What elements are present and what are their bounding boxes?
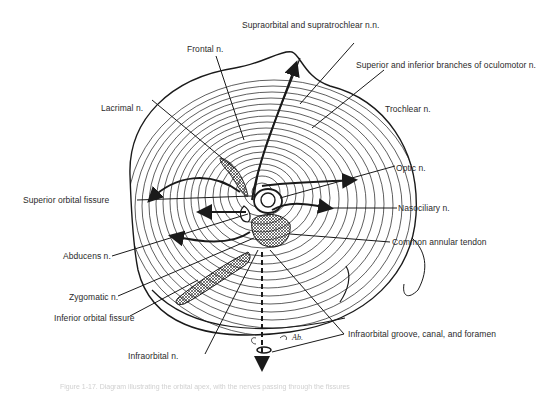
label-lacrimal-nerve: Lacrimal n. (101, 103, 143, 113)
orbit-diagram: Supraorbital and supratrochlear n.n. Fro… (0, 0, 549, 397)
label-infraorbital-groove: Infraorbital groove, canal, and foramen (348, 329, 496, 339)
artist-signature (280, 336, 287, 340)
label-nasociliary-nerve: Nasociliary n. (398, 203, 450, 213)
label-inferior-orbital-fissure: Inferior orbital fissure (54, 313, 135, 323)
artist-signature-text: Ab. (292, 333, 303, 343)
figure-caption: Figure 1-17. Diagram illustrating the or… (60, 383, 490, 390)
label-superior-orbital-fissure: Superior orbital fissure (23, 195, 109, 205)
label-oculomotor-branches: Superior and inferior branches of oculom… (356, 60, 536, 70)
label-supraorbital-supratrochlear: Supraorbital and supratrochlear n.n. (242, 20, 379, 30)
label-zygomatic-nerve: Zygomatic n. (69, 292, 118, 302)
label-frontal-nerve: Frontal n. (187, 44, 223, 54)
label-common-annular-tendon: Common annular tendon (392, 237, 487, 247)
label-optic-nerve: Optic n. (396, 163, 426, 173)
label-infraorbital-nerve: Infraorbital n. (128, 351, 178, 361)
label-trochlear-nerve: Trochlear n. (385, 104, 431, 114)
label-abducens-nerve: Abducens n. (63, 251, 111, 261)
nerve-pathways (150, 58, 354, 368)
